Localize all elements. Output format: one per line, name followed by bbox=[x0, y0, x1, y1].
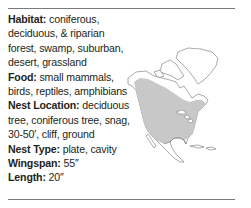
arctic-islands-shape bbox=[160, 60, 184, 80]
fact-value: plate, cavity bbox=[60, 143, 117, 155]
range-map bbox=[126, 46, 238, 164]
fact-value: 20″ bbox=[46, 171, 64, 183]
top-divider bbox=[8, 8, 235, 9]
fact-food: Food: small mammals, birds, reptiles, am… bbox=[8, 70, 132, 99]
fact-label: Nest Type: bbox=[8, 143, 60, 155]
fact-nest-location: Nest Location: deciduous tree, coniferou… bbox=[8, 98, 132, 141]
bottom-divider bbox=[8, 199, 235, 200]
greenland-shape bbox=[176, 48, 218, 84]
fact-label: Wingspan: bbox=[8, 157, 61, 169]
fact-nest-type: Nest Type: plate, cavity bbox=[8, 142, 132, 156]
fact-label: Food: bbox=[8, 71, 37, 83]
fact-value: 55″ bbox=[61, 157, 79, 169]
species-facts: Habitat: coniferous, deciduous, & ripari… bbox=[8, 12, 132, 185]
fact-length: Length: 20″ bbox=[8, 170, 132, 184]
fact-habitat: Habitat: coniferous, deciduous, & ripari… bbox=[8, 12, 132, 70]
fact-wingspan: Wingspan: 55″ bbox=[8, 156, 132, 170]
fact-label: Habitat: bbox=[8, 13, 46, 25]
fact-label: Length: bbox=[8, 171, 46, 183]
fact-label: Nest Location: bbox=[8, 99, 79, 111]
